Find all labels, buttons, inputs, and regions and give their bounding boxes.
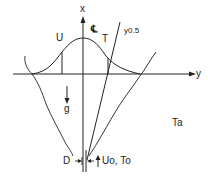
plume-boundary-right	[89, 52, 156, 156]
diameter-label: D	[63, 156, 70, 166]
ambient-label: Ta	[172, 118, 183, 128]
profile-curve	[32, 38, 140, 74]
y-axis-arrow-icon	[189, 72, 196, 77]
x-axis-arrow-icon	[81, 16, 86, 23]
half-width-label: y0.5	[124, 27, 139, 35]
d-arrow-right-icon	[78, 159, 82, 163]
gravity-label: g	[64, 104, 70, 114]
source-arrow-icon	[96, 155, 101, 160]
source-label: Uo, To	[102, 156, 131, 166]
velocity-label: U	[56, 33, 63, 43]
y-axis-label: y	[196, 69, 201, 79]
x-axis-label: x	[80, 4, 85, 14]
centerline-label: ℄	[91, 24, 97, 34]
temperature-label: T	[102, 34, 108, 44]
